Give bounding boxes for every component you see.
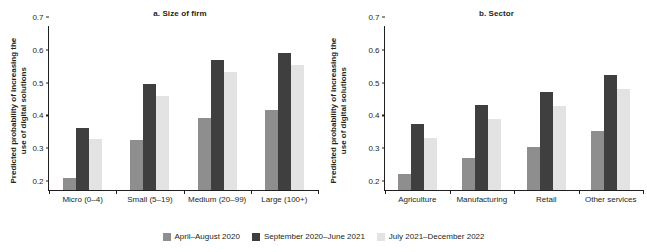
x-tick-mark [251,190,252,194]
bar-group-container-a [49,26,318,190]
x-axis-label: Agriculture [385,195,450,204]
bar-group [251,26,318,190]
x-axis-label: Retail [514,195,579,204]
bar [424,138,437,190]
x-tick-mark [49,190,50,194]
bar-group [49,26,116,190]
x-tick-mark [184,190,185,194]
bar [462,158,475,190]
bar [76,128,89,190]
y-tick-label: 0.7 [32,13,45,22]
y-tick-label: 0.5 [32,78,45,87]
x-tick-mark [643,190,644,194]
x-axis-label: Micro (0–4) [49,195,116,204]
x-axis-label: Small (5–19) [116,195,183,204]
legend-swatch [252,233,260,241]
bar [488,119,501,191]
bar-group-container-b [385,26,643,190]
bar [527,147,540,190]
bar [278,53,291,190]
y-tick: 0.2 [368,177,385,186]
bar [63,178,76,190]
x-tick-mark [385,190,386,194]
y-tick-label: 0.2 [32,177,45,186]
bar-group [385,26,450,190]
plot-area-a: 0.20.30.40.50.60.7 Micro (0–4)Small (5–1… [48,26,318,191]
legend-item: July 2021–December 2022 [377,232,485,241]
y-tick: 0.7 [368,13,385,22]
bar-group [450,26,515,190]
y-tick: 0.4 [368,111,385,120]
y-axis-title-b: Predicted probability of increasing the … [329,36,349,186]
y-tick-label: 0.4 [368,111,381,120]
bar [89,139,102,190]
bar-group [514,26,579,190]
bar [553,106,566,190]
bar [398,174,411,190]
plot-frame-b: 0.20.30.40.50.60.7 AgricultureManufactur… [384,26,643,191]
bar [156,96,169,190]
plot-frame-a: 0.20.30.40.50.60.7 Micro (0–4)Small (5–1… [48,26,318,191]
x-axis-ticks-b [385,190,643,194]
x-axis-labels-a: Micro (0–4)Small (5–19)Medium (20–99)Lar… [49,195,318,204]
y-tick: 0.6 [32,45,49,54]
bar [130,140,143,190]
legend-label: September 2020–June 2021 [264,232,365,241]
x-tick-mark [116,190,117,194]
bar [224,72,237,190]
y-tick: 0.2 [32,177,49,186]
bar [591,131,604,190]
y-tick-label: 0.4 [32,111,45,120]
chart-panel-size-of-firm: a. Size of firm Predicted probability of… [0,0,324,226]
y-tick-label: 0.6 [368,45,381,54]
x-tick-mark [450,190,451,194]
y-tick: 0.3 [32,144,49,153]
y-tick-mark [382,16,386,17]
chart-panel-sector: b. Sector Predicted probability of incre… [324,0,647,226]
legend-item: April–August 2020 [163,232,240,241]
y-tick-label: 0.5 [368,78,381,87]
legend-swatch [163,233,171,241]
bar-group [116,26,183,190]
y-tick-mark [46,16,50,17]
y-tick: 0.5 [32,78,49,87]
legend-label: April–August 2020 [175,232,240,241]
x-axis-labels-b: AgricultureManufacturingRetailOther serv… [385,195,643,204]
y-tick: 0.6 [368,45,385,54]
y-tick-label: 0.2 [368,177,381,186]
y-tick-label: 0.3 [32,144,45,153]
x-tick-mark [318,190,319,194]
bar-group [579,26,644,190]
y-tick-label: 0.6 [32,45,45,54]
y-tick-label: 0.3 [368,144,381,153]
bar [291,65,304,190]
legend-label: July 2021–December 2022 [389,232,485,241]
bar [604,75,617,190]
x-tick-mark [579,190,580,194]
y-tick: 0.5 [368,78,385,87]
x-axis-ticks-a [49,190,318,194]
y-tick-label: 0.7 [368,13,381,22]
x-axis-label: Manufacturing [450,195,515,204]
bar [617,89,630,190]
plot-area-b: 0.20.30.40.50.60.7 AgricultureManufactur… [384,26,643,191]
bar [143,84,156,190]
bar [411,124,424,190]
x-tick-mark [514,190,515,194]
x-axis-label: Medium (20–99) [184,195,251,204]
bar [211,60,224,190]
bar [265,110,278,190]
y-tick: 0.7 [32,13,49,22]
chart-legend: April–August 2020September 2020–June 202… [0,232,647,241]
bar-group [184,26,251,190]
y-axis-title-a: Predicted probability of increasing the … [9,36,29,186]
y-tick: 0.4 [32,111,49,120]
legend-item: September 2020–June 2021 [252,232,365,241]
x-axis-label: Other services [579,195,644,204]
bar [540,92,553,190]
legend-swatch [377,233,385,241]
y-tick: 0.3 [368,144,385,153]
bar [198,118,211,190]
x-axis-label: Large (100+) [251,195,318,204]
bar [475,105,488,190]
